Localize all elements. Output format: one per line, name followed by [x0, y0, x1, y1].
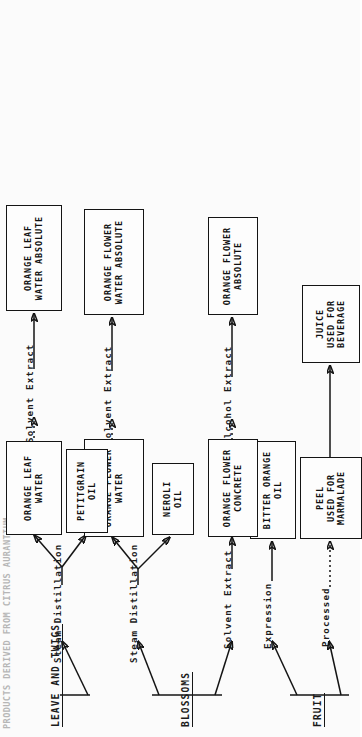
bitter-oil-line-1: BITTER ORANGE: [262, 451, 273, 529]
of-concrete-line-1: ORANGE FLOWER: [222, 449, 233, 527]
of-absolute-line-1: ORANGE FLOWER: [222, 227, 233, 305]
of-absolute-line-2: ABSOLUTE: [233, 242, 244, 290]
process-label-solvent-extract-leaf-water: Solvent Extract: [24, 344, 35, 443]
product-box-peel: PEEL USED FOR MARMALADE: [300, 457, 362, 539]
process-label-solvent-extract-flower-water: Solvent Extract: [102, 346, 113, 445]
peel-line-3: MARMALADE: [336, 471, 347, 525]
process-label-solvent-extract-blossoms: Solvent Extract: [222, 550, 233, 649]
bitter-oil-line-2: OIL: [273, 481, 284, 499]
petitgrain-line-2: OIL: [87, 482, 98, 500]
group-label-fruit: FRUIT: [312, 693, 325, 727]
process-label-alcohol-extract: Alcohol Extract: [222, 346, 233, 445]
juice-line-2: USED FOR: [326, 300, 337, 348]
group-label-blossoms: BLOSSOMS: [180, 672, 193, 727]
olw-abs-line-2: WATER ABSOLUTE: [34, 216, 45, 300]
diagram-title: PRODUCTS DERIVED FROM CITRUS AURANTIUM: [2, 517, 12, 729]
process-label-processed: Processed: [320, 587, 331, 647]
olw-abs-line-1: ORANGE LEAF: [23, 225, 34, 291]
product-box-orange-flower-absolute: ORANGE FLOWER ABSOLUTE: [208, 217, 258, 315]
process-label-expression: Expression: [262, 583, 273, 649]
of-concrete-line-2: CONCRETE: [233, 464, 244, 512]
product-box-juice: JUICE USED FOR BEVERAGE: [302, 285, 360, 363]
process-label-steam-distillation-leaves: Steam Distillation: [52, 544, 63, 663]
olw-line-2: WATER: [34, 473, 45, 503]
juice-line-3: BEVERAGE: [336, 300, 347, 348]
ofw-line-2: WATER: [114, 473, 125, 503]
ofw-abs-line-2: WATER ABSOLUTE: [114, 220, 125, 304]
product-box-orange-flower-concrete: ORANGE FLOWER CONCRETE: [208, 439, 258, 537]
process-label-steam-distillation-blossoms: Steam Distillation: [128, 544, 139, 663]
olw-line-1: ORANGE LEAF: [23, 455, 34, 521]
product-box-orange-flower-water-absolute: ORANGE FLOWER WATER ABSOLUTE: [84, 209, 144, 315]
peel-line-2: USED FOR: [326, 474, 337, 522]
product-box-petitgrain-oil: PETITGRAIN OIL: [66, 449, 108, 533]
neroli-line-1: NEROLI: [162, 481, 173, 517]
petitgrain-line-1: PETITGRAIN: [76, 461, 87, 521]
neroli-line-2: OIL: [173, 490, 184, 508]
ofw-abs-line-1: ORANGE FLOWER: [103, 223, 114, 301]
product-box-orange-leaf-water: ORANGE LEAF WATER: [6, 441, 62, 535]
juice-line-1: JUICE: [315, 309, 326, 339]
product-box-neroli-oil: NEROLI OIL: [152, 463, 194, 535]
product-box-orange-leaf-water-absolute: ORANGE LEAF WATER ABSOLUTE: [6, 205, 62, 311]
peel-line-1: PEEL: [315, 486, 326, 510]
